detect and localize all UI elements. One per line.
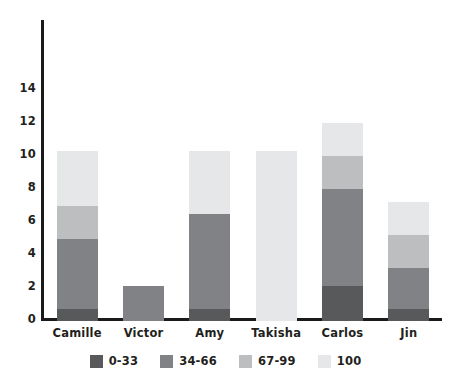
y-axis-tick-label: 14	[6, 83, 36, 95]
y-axis-tick-label: 8	[6, 182, 36, 194]
stacked-bar-chart: 02468101214 CamilleVictorAmyTakishaCarlo…	[0, 0, 451, 384]
legend-item[interactable]: 0-33	[90, 355, 139, 368]
bar-segment[interactable]	[189, 309, 230, 321]
bar-segment[interactable]	[123, 286, 164, 321]
legend-swatch-icon	[160, 355, 173, 368]
bar-segment[interactable]	[57, 151, 98, 205]
bars-layer	[44, 0, 442, 321]
x-axis-category-label: Amy	[177, 327, 243, 341]
bar-stack	[256, 151, 297, 321]
bar-segment[interactable]	[322, 156, 363, 189]
legend-label: 34-66	[179, 356, 217, 368]
bar-group[interactable]	[388, 0, 429, 321]
legend-label: 0-33	[109, 356, 139, 368]
bar-segment[interactable]	[322, 286, 363, 321]
bar-stack	[57, 151, 98, 321]
legend-swatch-icon	[239, 355, 252, 368]
chart-legend: 0-3334-6667-99100	[0, 355, 451, 368]
bar-segment[interactable]	[322, 123, 363, 156]
bar-segment[interactable]	[388, 202, 429, 235]
y-axis-tick-label: 6	[6, 215, 36, 227]
bar-group[interactable]	[123, 0, 164, 321]
bar-segment[interactable]	[57, 309, 98, 321]
bar-group[interactable]	[57, 0, 98, 321]
bar-segment[interactable]	[189, 151, 230, 214]
legend-swatch-icon	[90, 355, 103, 368]
bar-segment[interactable]	[189, 214, 230, 310]
bar-segment[interactable]	[322, 189, 363, 286]
bar-segment[interactable]	[256, 151, 297, 321]
x-axis-category-label: Jin	[376, 327, 442, 341]
bar-group[interactable]	[322, 0, 363, 321]
y-axis-tick-labels: 02468101214	[0, 0, 36, 384]
y-axis-tick-label: 4	[6, 248, 36, 260]
bar-group[interactable]	[256, 0, 297, 321]
x-axis-category-labels: CamilleVictorAmyTakishaCarlosJin	[44, 327, 442, 347]
bar-stack	[189, 151, 230, 321]
bar-stack	[123, 286, 164, 321]
legend-item[interactable]: 34-66	[160, 355, 217, 368]
y-axis-tick-label: 2	[6, 281, 36, 293]
bar-stack	[322, 123, 363, 321]
y-axis-tick-label: 0	[6, 314, 36, 326]
bar-stack	[388, 202, 429, 321]
x-axis-category-label: Carlos	[309, 327, 375, 341]
bar-segment[interactable]	[388, 268, 429, 309]
legend-swatch-icon	[318, 355, 331, 368]
bar-segment[interactable]	[57, 239, 98, 310]
bar-segment[interactable]	[388, 309, 429, 321]
x-axis-category-label: Camille	[44, 327, 110, 341]
y-axis-tick-label: 10	[6, 149, 36, 161]
bar-segment[interactable]	[57, 206, 98, 239]
legend-label: 67-99	[258, 356, 296, 368]
bar-segment[interactable]	[388, 235, 429, 268]
legend-item[interactable]: 67-99	[239, 355, 296, 368]
x-axis-category-label: Takisha	[243, 327, 309, 341]
legend-label: 100	[337, 356, 362, 368]
y-axis-tick-label: 12	[6, 116, 36, 128]
x-axis-category-label: Victor	[110, 327, 176, 341]
legend-item[interactable]: 100	[318, 355, 362, 368]
bar-group[interactable]	[189, 0, 230, 321]
